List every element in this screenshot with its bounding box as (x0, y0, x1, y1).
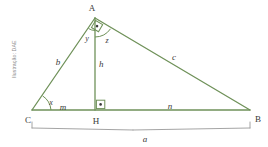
angle-label-x: x (48, 98, 53, 107)
right-angle-marker-h (96, 100, 104, 108)
segment-b-line (32, 18, 95, 110)
angle-label-y: y (84, 34, 89, 43)
illustration-credit: Ilustração: DAE (11, 40, 17, 78)
vertex-label-h: H (93, 116, 100, 126)
vertex-label-a: A (89, 3, 96, 13)
segment-label-h: h (99, 59, 104, 69)
segment-label-b: b (56, 57, 61, 67)
triangle-svg: A C H B b c h m n a x y z Ilustração: DA… (0, 0, 268, 147)
bracket-a (32, 122, 250, 130)
segment-label-a: a (143, 134, 148, 144)
segment-c-line (95, 18, 250, 110)
segment-label-c: c (172, 52, 176, 62)
angle-label-z: z (104, 36, 109, 45)
segment-label-m: m (60, 102, 67, 112)
geometry-diagram: A C H B b c h m n a x y z Ilustração: DA… (0, 0, 268, 147)
segment-label-n: n (168, 101, 173, 111)
vertex-label-c: C (25, 115, 31, 125)
vertex-label-b: B (255, 114, 261, 124)
